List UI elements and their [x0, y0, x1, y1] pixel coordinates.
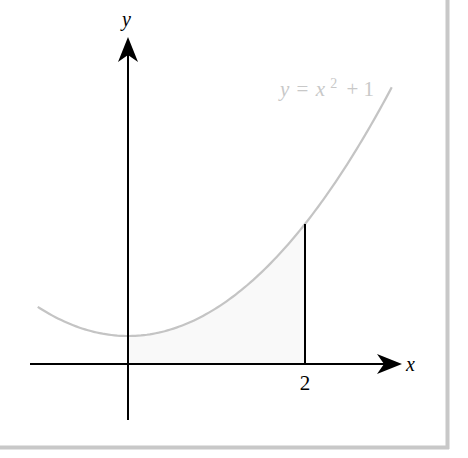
curve-label-exponent: 2 [330, 76, 337, 91]
x-axis-label: x [405, 353, 415, 375]
shaded-area [128, 224, 305, 364]
curve-equation-label: y = x 2 + 1 [278, 69, 374, 101]
diagram-frame: x y 2 y = x 2 + 1 [0, 0, 468, 458]
y-axis-label: y [120, 8, 131, 31]
curve-label-base: x [315, 77, 326, 101]
parabola-curve [38, 87, 392, 336]
tick-label-2: 2 [300, 371, 311, 395]
function-graph: x y 2 y = x 2 + 1 [0, 0, 468, 458]
curve-label-equals: = [297, 77, 309, 101]
curve-label-lhs: y [278, 77, 290, 101]
curve-label-rest: + 1 [347, 77, 375, 101]
